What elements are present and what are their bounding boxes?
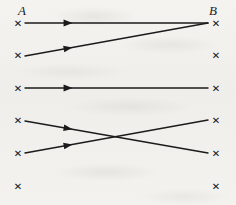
node-marker-a3: ✕ (14, 84, 23, 93)
node-marker-a1: ✕ (14, 19, 23, 28)
edge-layer (0, 0, 236, 205)
node-marker-b2: ✕ (212, 51, 221, 60)
edge-a3-b3 (25, 85, 208, 92)
node-marker-b3: ✕ (212, 84, 221, 93)
edge-a1-b1-arrowhead (64, 20, 73, 27)
mapping-diagram: A B ✕✕✕✕✕✕✕✕✕✕✕✕ (0, 0, 236, 205)
edge-a2-b1-arrowhead (63, 46, 72, 53)
edge-a3-b3-arrowhead (64, 85, 73, 92)
edge-a1-b1 (25, 20, 208, 27)
node-marker-b4: ✕ (212, 116, 221, 125)
edge-a2-b1-shaft (25, 23, 208, 56)
edge-a2-b1 (25, 23, 208, 56)
node-marker-b1: ✕ (212, 19, 221, 28)
edge-a5-b4-arrowhead (63, 143, 72, 150)
node-marker-a5: ✕ (14, 149, 23, 158)
edge-a4-b5-arrowhead (63, 124, 72, 131)
node-marker-b6: ✕ (212, 182, 221, 191)
node-marker-a4: ✕ (14, 116, 23, 125)
node-marker-a2: ✕ (14, 51, 23, 60)
node-marker-b5: ✕ (212, 149, 221, 158)
node-marker-a6: ✕ (14, 182, 23, 191)
